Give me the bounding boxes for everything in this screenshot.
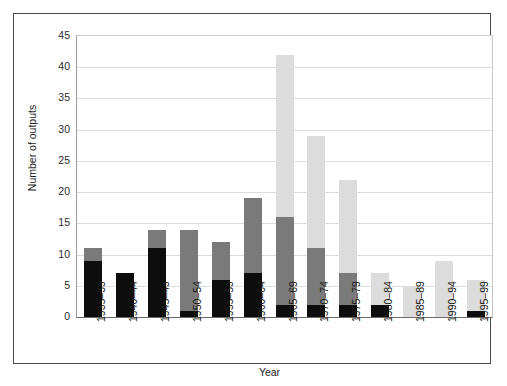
y-axis-tick-label: 0 xyxy=(42,311,70,321)
y-axis-title: Number of outputs xyxy=(26,78,38,218)
x-axis-title-text: Year xyxy=(259,366,280,378)
bar-segment-light-grey xyxy=(307,136,325,248)
bar-segment-light-grey xyxy=(276,55,294,217)
x-axis-tick-label: 1975–79 xyxy=(351,262,362,322)
x-axis-tick-label: 1980–84 xyxy=(383,262,394,322)
bar-segment-light-grey xyxy=(339,180,357,274)
y-axis-tick-labels: 051015202530354045 xyxy=(40,35,70,316)
x-axis-tick-label: 1970–74 xyxy=(319,262,330,322)
y-axis-tick-label: 5 xyxy=(42,280,70,290)
figure: Number of outputs 051015202530354045 193… xyxy=(0,0,507,386)
x-axis-tick-label: 1995–99 xyxy=(479,262,490,322)
y-axis-tick-label: 10 xyxy=(42,249,70,259)
x-axis-tick-label: 1960–64 xyxy=(256,262,267,322)
bar-segment-dark-grey xyxy=(148,230,166,249)
y-axis-tick-label: 40 xyxy=(42,61,70,71)
y-axis-tick-label: 35 xyxy=(42,92,70,102)
y-axis-tick-label: 45 xyxy=(42,30,70,40)
bar-segment-dark-grey xyxy=(84,248,102,260)
y-axis-tick-label: 25 xyxy=(42,155,70,165)
x-axis-tick-label: 1990–94 xyxy=(447,262,458,322)
x-axis-tick-label: 1950–54 xyxy=(192,262,203,322)
x-axis-tick-label: 1945–49 xyxy=(160,262,171,322)
y-axis-tick-label: 20 xyxy=(42,186,70,196)
x-axis-title: Year xyxy=(14,366,507,378)
figure-frame: Number of outputs 051015202530354045 193… xyxy=(13,13,491,364)
x-axis-tick-label: 1955–59 xyxy=(224,262,235,322)
x-axis-tick-label: 1985–89 xyxy=(415,262,426,322)
x-axis-tick-label: 1940–44 xyxy=(128,262,139,322)
x-axis-tick-label: 1965–69 xyxy=(288,262,299,322)
y-axis-tick-label: 30 xyxy=(42,124,70,134)
x-axis-tick-label: 1935–39 xyxy=(96,262,107,322)
y-axis-tick-label: 15 xyxy=(42,217,70,227)
